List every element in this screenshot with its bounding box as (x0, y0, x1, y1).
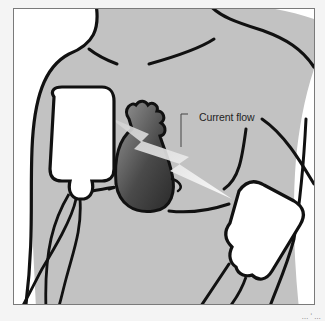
current-flow-label: Current flow (199, 111, 254, 123)
image-credit: … ʻ … (302, 313, 321, 320)
torso-illustration (14, 9, 314, 304)
paddle-right-chest (50, 87, 114, 199)
illustration-frame: Current flow (13, 8, 315, 305)
